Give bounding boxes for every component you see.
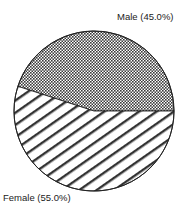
slice-label-female: Female (55.0%): [3, 192, 71, 203]
slice-label-male: Male (45.0%): [117, 11, 174, 22]
pie-chart: [0, 0, 186, 216]
